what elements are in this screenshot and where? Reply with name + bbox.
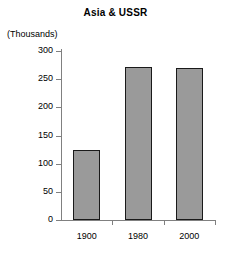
y-axis-tick <box>56 51 62 52</box>
y-axis-tick-label: 100 <box>38 158 53 169</box>
y-axis-units-label: (Thousands) <box>7 29 58 39</box>
y-axis-tick-label: 200 <box>38 101 53 112</box>
y-axis-tick-label: 300 <box>38 45 53 56</box>
bar-chart: Asia & USSR (Thousands) 0501001502002503… <box>0 0 231 257</box>
bar-2000 <box>176 68 203 220</box>
bar-1900 <box>73 150 100 220</box>
bar-1980 <box>125 67 152 220</box>
x-axis-tick <box>215 220 216 225</box>
x-axis-tick <box>112 220 113 225</box>
chart-title: Asia & USSR <box>0 7 231 18</box>
y-axis-tick <box>56 164 62 165</box>
y-axis-tick <box>56 136 62 137</box>
y-axis-tick-label: 0 <box>48 214 53 225</box>
x-axis-label-1980: 1980 <box>118 231 158 242</box>
y-axis-tick-label: 150 <box>38 130 53 141</box>
y-axis-tick <box>56 220 62 221</box>
y-axis-tick-label: 50 <box>43 186 53 197</box>
x-axis-tick <box>164 220 165 225</box>
plot-area: 050100150200250300 <box>61 51 215 220</box>
y-axis-tick-label: 250 <box>38 73 53 84</box>
x-axis-label-2000: 2000 <box>169 231 209 242</box>
x-axis-line <box>61 220 216 221</box>
y-axis-tick <box>56 107 62 108</box>
x-axis-label-1900: 1900 <box>67 231 107 242</box>
y-axis-tick <box>56 192 62 193</box>
y-axis-tick <box>56 79 62 80</box>
